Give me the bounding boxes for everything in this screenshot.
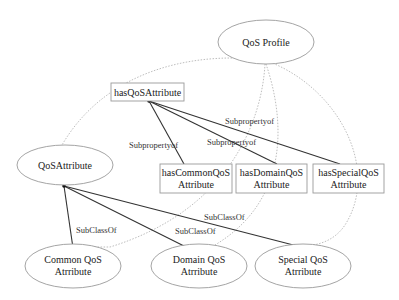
edge-label-subclass-special: SubClassOf bbox=[204, 212, 245, 222]
node-domain-qos-attribute: Domain QoS Atrribute bbox=[151, 244, 247, 288]
node-qos-profile: QoS Profile bbox=[218, 20, 314, 64]
edge-label-subprop-special: Subpropertyof bbox=[225, 116, 274, 126]
edge-label-subprop-common: Subpropertyof bbox=[129, 140, 178, 150]
node-label-common-line2: Atrribute bbox=[55, 266, 92, 277]
solid-edge-subclass-common bbox=[64, 186, 73, 248]
solid-edge-subprop-special bbox=[149, 101, 340, 164]
solid-edge-subclass-domain bbox=[64, 186, 188, 248]
node-special-qos-attribute: Special QoS Atrribute bbox=[255, 244, 351, 288]
node-label-has-special-line2: Attribute bbox=[330, 179, 367, 190]
dotted-edge-profile-to-attribute bbox=[62, 58, 232, 145]
node-has-qos-attribute: hasQoSAttribute bbox=[111, 83, 184, 101]
node-label-domain-line1: Domain QoS bbox=[173, 254, 226, 265]
node-has-special-qos-attribute: hasSpecialQoS Attribute bbox=[313, 164, 384, 193]
node-has-domain-qos-attribute: hasDomainQoS Attribute bbox=[236, 164, 307, 193]
node-label-qos-profile: QoS Profile bbox=[242, 37, 290, 48]
node-label-has-domain-line2: Attribute bbox=[253, 179, 290, 190]
node-label-has-domain-line1: hasDomainQoS bbox=[240, 167, 303, 178]
qos-ontology-diagram: Subpropertyof Subpropertyof Subpropertyo… bbox=[0, 0, 399, 300]
edge-label-subclass-common: SubClassOf bbox=[76, 225, 117, 235]
node-label-has-special-line1: hasSpecialQoS bbox=[318, 167, 379, 178]
node-common-qos-attribute: Common QoS Atrribute bbox=[25, 244, 121, 288]
solid-edge-subclass-special bbox=[64, 186, 305, 248]
node-label-special-line1: Special QoS bbox=[278, 254, 328, 265]
node-label-special-line2: Atrribute bbox=[285, 266, 322, 277]
node-label-has-common-line2: Attribute bbox=[178, 179, 215, 190]
node-label-has-qos-attribute: hasQoSAttribute bbox=[114, 87, 182, 98]
edge-label-subclass-domain: SubClassOf bbox=[175, 226, 216, 236]
edge-label-subprop-domain: Subpropertyof bbox=[207, 137, 256, 147]
node-label-qos-attribute: QoSAttribute bbox=[38, 160, 92, 171]
node-qos-attribute: QoSAttribute bbox=[17, 145, 113, 185]
solid-edge-subprop-domain bbox=[149, 101, 277, 164]
node-has-common-qos-attribute: hasCommonQoS Attribute bbox=[160, 164, 232, 193]
node-label-common-line1: Common QoS bbox=[44, 254, 102, 265]
node-label-has-common-line1: hasCommonQoS bbox=[162, 167, 230, 178]
node-label-domain-line2: Atrribute bbox=[181, 266, 218, 277]
dotted-edge-profile-to-special bbox=[270, 62, 358, 246]
